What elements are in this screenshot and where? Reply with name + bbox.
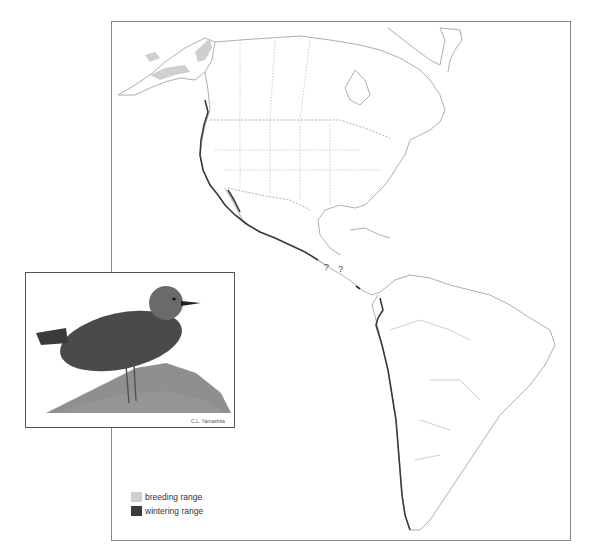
wintering-swatch [131,506,142,516]
legend-item-wintering: wintering range [131,504,203,518]
legend-item-breeding: breeding range [131,490,203,504]
artist-signature: C.L. Yamashita [191,418,225,424]
uncertain-mark-1: ? [324,262,329,272]
legend: breeding range wintering range [131,490,203,518]
bird-illustration: C.L. Yamashita [26,273,235,428]
legend-label-breeding: breeding range [145,492,202,502]
breeding-swatch [131,492,142,502]
uncertain-mark-2: ? [338,264,343,274]
bird-illustration-inset: C.L. Yamashita [25,272,235,428]
breeding-range [145,38,212,80]
legend-label-wintering: wintering range [145,506,203,516]
